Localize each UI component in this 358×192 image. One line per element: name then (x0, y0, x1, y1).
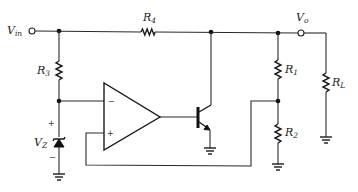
resistor-r3: R3 (36, 61, 62, 80)
vin-terminal: Vin (7, 24, 35, 38)
op-amp: − + (104, 83, 160, 150)
junction-divider (276, 99, 281, 104)
vin-label: Vin (7, 24, 22, 38)
vo-label: Vo (296, 11, 309, 25)
opamp-noninverting-sign: + (107, 129, 114, 138)
feedback-wire (86, 101, 278, 166)
r4-label: R4 (142, 11, 156, 25)
resistor-rl: RL (323, 73, 345, 92)
vo-terminal: Vo (296, 11, 309, 36)
resistor-r1: R1 (275, 60, 298, 79)
opamp-inverting-sign: − (108, 97, 115, 106)
top-rail (35, 31, 326, 33)
r1-label: R1 (284, 63, 298, 77)
ground-icon (204, 148, 216, 154)
npn-transistor (198, 32, 211, 148)
rl-label: RL (331, 76, 345, 90)
regulator-circuit: Vin R4 Vo R3 + − VZ (0, 0, 358, 192)
ground-icon (53, 172, 65, 180)
vz-label: VZ (34, 136, 48, 150)
zener-minus: − (49, 153, 56, 162)
resistor-r2: R2 (275, 124, 298, 143)
resistor-r4: R4 (141, 11, 156, 35)
ground-icon (272, 164, 284, 170)
r2-label: R2 (284, 126, 298, 140)
zener-plus: + (48, 119, 55, 128)
ground-icon (320, 137, 332, 143)
zener-diode: + − VZ (34, 119, 65, 172)
r3-label: R3 (36, 64, 50, 78)
